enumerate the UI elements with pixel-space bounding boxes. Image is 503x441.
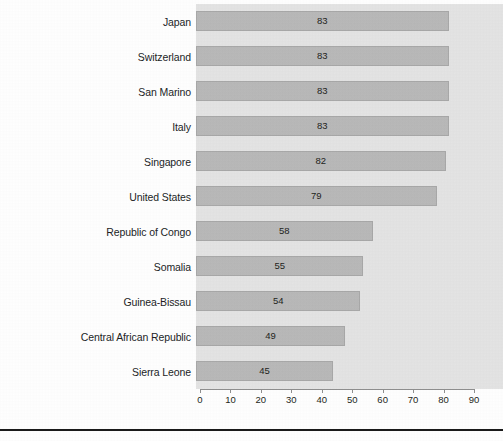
bar: 49 bbox=[196, 326, 345, 346]
bar-row: Sierra Leone45 bbox=[0, 354, 503, 389]
bar-track: 83 bbox=[196, 4, 503, 39]
bar: 83 bbox=[196, 46, 449, 66]
bar-row: Italy83 bbox=[0, 109, 503, 144]
bar-value-label: 58 bbox=[279, 226, 290, 236]
bar: 58 bbox=[196, 221, 373, 241]
x-axis-tick bbox=[322, 389, 323, 393]
x-axis-tick bbox=[474, 389, 475, 393]
x-axis-tick-label: 50 bbox=[347, 394, 358, 405]
x-axis-tick-label: 90 bbox=[469, 394, 480, 405]
category-label: Somalia bbox=[0, 261, 196, 273]
x-axis-tick-label: 10 bbox=[225, 394, 236, 405]
x-axis-tick bbox=[413, 389, 414, 393]
category-label: Sierra Leone bbox=[0, 366, 196, 378]
x-axis-tick bbox=[230, 389, 231, 393]
bar: 83 bbox=[196, 116, 449, 136]
bar-value-label: 83 bbox=[317, 51, 328, 61]
category-label: United States bbox=[0, 191, 196, 203]
bar: 83 bbox=[196, 11, 449, 31]
bar-track: 55 bbox=[196, 249, 503, 284]
bar-value-label: 79 bbox=[311, 191, 322, 201]
x-axis-tick bbox=[291, 389, 292, 393]
x-axis-tick bbox=[444, 389, 445, 393]
bar-track: 54 bbox=[196, 284, 503, 319]
x-axis-tick-label: 0 bbox=[197, 394, 202, 405]
bar: 54 bbox=[196, 291, 360, 311]
x-axis-tick bbox=[352, 389, 353, 393]
bar-value-label: 83 bbox=[317, 16, 328, 26]
x-axis-tick-label: 70 bbox=[408, 394, 419, 405]
category-label: Singapore bbox=[0, 156, 196, 168]
x-axis-tick bbox=[383, 389, 384, 393]
bar-row: San Marino83 bbox=[0, 74, 503, 109]
x-axis-tick bbox=[200, 389, 201, 393]
x-axis-line bbox=[200, 389, 474, 390]
bar: 83 bbox=[196, 81, 449, 101]
chart-page: Japan83Switzerland83San Marino83Italy83S… bbox=[0, 0, 503, 441]
x-axis-tick-label: 30 bbox=[286, 394, 297, 405]
bar-row: Republic of Congo58 bbox=[0, 214, 503, 249]
bar-value-label: 82 bbox=[316, 156, 327, 166]
bar: 79 bbox=[196, 186, 437, 206]
bar-row: Japan83 bbox=[0, 4, 503, 39]
bar: 82 bbox=[196, 151, 446, 171]
bar-row: Somalia55 bbox=[0, 249, 503, 284]
bar-value-label: 55 bbox=[274, 261, 285, 271]
bar-chart: Japan83Switzerland83San Marino83Italy83S… bbox=[0, 0, 503, 396]
bar-row: Switzerland83 bbox=[0, 39, 503, 74]
bar-value-label: 83 bbox=[317, 121, 328, 131]
bar-track: 82 bbox=[196, 144, 503, 179]
category-label: Guinea-Bissau bbox=[0, 296, 196, 308]
category-label: Republic of Congo bbox=[0, 226, 196, 238]
bar-row: United States79 bbox=[0, 179, 503, 214]
bar-row: Guinea-Bissau54 bbox=[0, 284, 503, 319]
bar-row: Central African Republic49 bbox=[0, 319, 503, 354]
bar-track: 79 bbox=[196, 179, 503, 214]
x-axis-tick-label: 40 bbox=[316, 394, 327, 405]
bar-track: 45 bbox=[196, 354, 503, 389]
category-label: Italy bbox=[0, 121, 196, 133]
bar-value-label: 83 bbox=[317, 86, 328, 96]
category-label: Central African Republic bbox=[0, 331, 196, 343]
category-label: Japan bbox=[0, 16, 196, 28]
bar-value-label: 45 bbox=[259, 366, 270, 376]
bar-track: 49 bbox=[196, 319, 503, 354]
bar-value-label: 49 bbox=[265, 331, 276, 341]
bar-row: Singapore82 bbox=[0, 144, 503, 179]
footer-rule bbox=[0, 429, 503, 431]
bar-track: 83 bbox=[196, 74, 503, 109]
x-axis-tick-label: 20 bbox=[256, 394, 267, 405]
category-label: San Marino bbox=[0, 86, 196, 98]
x-axis-tick bbox=[261, 389, 262, 393]
x-axis-tick-label: 60 bbox=[377, 394, 388, 405]
bar-track: 83 bbox=[196, 39, 503, 74]
bar: 45 bbox=[196, 361, 333, 381]
category-label: Switzerland bbox=[0, 51, 196, 63]
bar-value-label: 54 bbox=[273, 296, 284, 306]
x-axis-tick-label: 80 bbox=[438, 394, 449, 405]
bar-track: 58 bbox=[196, 214, 503, 249]
bar-track: 83 bbox=[196, 109, 503, 144]
bar: 55 bbox=[196, 256, 363, 276]
bar-rows: Japan83Switzerland83San Marino83Italy83S… bbox=[0, 4, 503, 389]
